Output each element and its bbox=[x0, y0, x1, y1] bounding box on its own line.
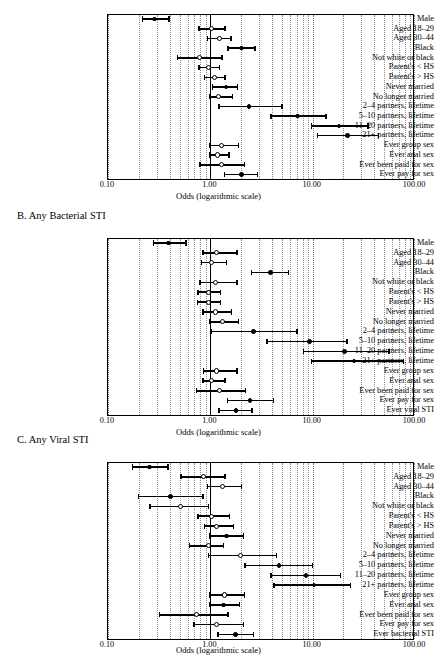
row-label: Never married bbox=[386, 308, 434, 316]
gridline bbox=[343, 463, 344, 639]
confidence-interval-cap bbox=[193, 622, 194, 627]
confidence-interval-cap bbox=[303, 349, 304, 354]
row-label: Aged 18–29 bbox=[393, 25, 434, 33]
row-label: Ever group sex bbox=[384, 367, 434, 375]
confidence-interval-bar bbox=[209, 594, 245, 596]
row-label: Not white or black bbox=[372, 54, 434, 62]
confidence-interval-cap bbox=[204, 75, 205, 80]
confidence-interval-cap bbox=[266, 339, 267, 344]
confidence-interval-cap bbox=[204, 524, 205, 529]
row-label: Ever pay for sex bbox=[379, 620, 434, 628]
row-label: No longer married bbox=[373, 542, 434, 550]
confidence-interval-cap bbox=[132, 464, 133, 469]
confidence-interval-cap bbox=[209, 602, 210, 607]
point-estimate-marker-open bbox=[215, 152, 220, 157]
confidence-interval-cap bbox=[325, 114, 326, 119]
confidence-interval-cap bbox=[202, 309, 203, 314]
row-label: Black bbox=[415, 44, 434, 52]
gridline bbox=[282, 463, 283, 639]
gridline bbox=[108, 15, 109, 179]
gridline bbox=[139, 239, 140, 415]
confidence-interval-cap bbox=[238, 143, 239, 148]
gridline bbox=[313, 15, 314, 179]
confidence-interval-cap bbox=[231, 309, 232, 314]
point-estimate-marker-open bbox=[214, 524, 219, 529]
confidence-interval-cap bbox=[153, 240, 154, 245]
row-label: Ever group sex bbox=[384, 141, 434, 149]
row-label: Ever pay for sex bbox=[379, 170, 434, 178]
gridline bbox=[157, 239, 158, 415]
gridline bbox=[139, 15, 140, 179]
reference-line bbox=[210, 463, 211, 639]
confidence-interval-cap bbox=[340, 573, 341, 578]
confidence-interval-cap bbox=[227, 398, 228, 403]
row-label: 2–4 partners, lifetime bbox=[363, 551, 434, 559]
point-estimate-marker-filled bbox=[277, 563, 282, 568]
point-estimate-marker-filled bbox=[239, 172, 244, 177]
gridline bbox=[200, 15, 201, 179]
gridline bbox=[272, 463, 273, 639]
confidence-interval-cap bbox=[220, 300, 221, 305]
confidence-interval-cap bbox=[209, 143, 210, 148]
confidence-interval-cap bbox=[312, 563, 313, 568]
confidence-interval-cap bbox=[281, 104, 282, 109]
point-estimate-marker-open bbox=[217, 36, 222, 41]
x-tick-label: 100.00 bbox=[391, 180, 437, 189]
gridline bbox=[297, 239, 298, 415]
confidence-interval-cap bbox=[232, 94, 233, 99]
point-estimate-marker-filled bbox=[342, 349, 347, 354]
point-estimate-marker-open bbox=[213, 309, 218, 314]
confidence-interval-cap bbox=[254, 46, 255, 51]
row-label: Aged 18–29 bbox=[393, 249, 434, 257]
confidence-interval-cap bbox=[207, 36, 208, 41]
row-label: 21+ partners, lifetime bbox=[362, 581, 434, 589]
point-estimate-marker-open bbox=[214, 368, 219, 373]
row-label: 5–10 partners, lifetime bbox=[359, 561, 434, 569]
point-estimate-marker-filled bbox=[345, 133, 350, 138]
confidence-interval-cap bbox=[219, 65, 220, 70]
point-estimate-marker-filled bbox=[221, 603, 226, 608]
row-label: 5–10 partners, lifetime bbox=[359, 337, 434, 345]
confidence-interval-cap bbox=[218, 104, 219, 109]
gridline bbox=[188, 239, 189, 415]
confidence-interval-cap bbox=[276, 553, 277, 558]
confidence-interval-cap bbox=[224, 75, 225, 80]
confidence-interval-cap bbox=[311, 123, 312, 128]
point-estimate-marker-open bbox=[178, 504, 183, 509]
gridline bbox=[313, 239, 314, 415]
confidence-interval-cap bbox=[149, 504, 150, 509]
confidence-interval-cap bbox=[367, 123, 368, 128]
confidence-interval-cap bbox=[224, 172, 225, 177]
point-estimate-marker-open bbox=[222, 592, 227, 597]
gridline bbox=[272, 239, 273, 415]
gridline bbox=[290, 463, 291, 639]
gridline bbox=[303, 15, 304, 179]
confidence-interval-bar bbox=[199, 282, 237, 284]
row-label: Ever viral STI bbox=[387, 406, 434, 414]
confidence-interval-cap bbox=[350, 583, 351, 588]
x-tick-label: 100.00 bbox=[391, 416, 437, 425]
gridline bbox=[241, 239, 242, 415]
row-label: Parent's > HS bbox=[389, 298, 434, 306]
gridline bbox=[297, 463, 298, 639]
confidence-interval-cap bbox=[270, 573, 271, 578]
row-label: Ever anal sex bbox=[389, 601, 434, 609]
confidence-interval-cap bbox=[217, 632, 218, 637]
row-label: 2–4 partners, lifetime bbox=[363, 327, 434, 335]
gridline bbox=[303, 463, 304, 639]
confidence-interval-cap bbox=[167, 464, 168, 469]
gridline bbox=[241, 463, 242, 639]
row-label: 11–20 partners, lifetime bbox=[355, 571, 434, 579]
gridline bbox=[170, 239, 171, 415]
confidence-interval-bar bbox=[202, 252, 238, 254]
confidence-interval-bar bbox=[203, 370, 238, 372]
confidence-interval-bar bbox=[209, 145, 239, 147]
confidence-interval-cap bbox=[201, 260, 202, 265]
gridline bbox=[194, 15, 195, 179]
confidence-interval-cap bbox=[346, 339, 347, 344]
confidence-interval-cap bbox=[209, 592, 210, 597]
confidence-interval-cap bbox=[220, 290, 221, 295]
confidence-interval-cap bbox=[227, 46, 228, 51]
confidence-interval-cap bbox=[378, 133, 379, 138]
gridline bbox=[308, 239, 309, 415]
